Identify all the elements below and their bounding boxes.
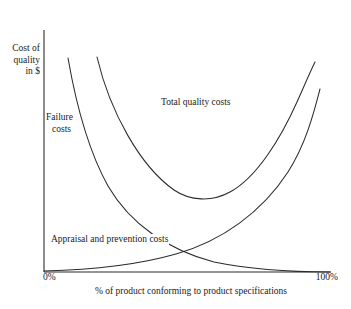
chart-plot-area [0, 0, 351, 309]
x-axis-tick-100: 100% [276, 272, 338, 284]
y-axis-label-line-2: quality [4, 55, 40, 67]
y-axis-label-line-3: in $ [4, 66, 40, 78]
failure-costs-label-line-1: Failure [46, 112, 73, 122]
failure-costs-label: Failure costs [46, 112, 86, 135]
x-axis-tick-0: 0% [43, 272, 56, 284]
total-quality-costs-label: Total quality costs [161, 97, 231, 109]
x-axis-label: % of product conforming to product speci… [44, 286, 338, 298]
quality-cost-chart: Cost of quality in $ 0% 100% % of produc… [0, 0, 351, 309]
total-quality-costs-curve [97, 57, 315, 199]
y-axis-label: Cost of quality in $ [4, 43, 40, 78]
y-axis-label-line-1: Cost of [4, 43, 40, 55]
appraisal-prevention-costs-label: Appraisal and prevention costs [50, 234, 169, 246]
failure-costs-label-line-2: costs [46, 124, 86, 136]
